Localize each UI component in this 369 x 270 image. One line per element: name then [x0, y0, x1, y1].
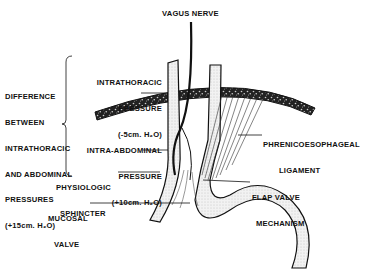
- line: VALVE: [48, 241, 88, 250]
- line: FLAP VALVE: [252, 194, 305, 203]
- label-mucosal-valve: MUCOSAL VALVE: [48, 198, 88, 258]
- line: INTRATHORACIC: [5, 145, 72, 154]
- label-vagus-nerve: VAGUS NERVE: [162, 10, 219, 19]
- line: MUCOSAL: [48, 215, 88, 224]
- line: LIGAMENT: [263, 167, 360, 176]
- line: DIFFERENCE: [5, 93, 72, 102]
- line: MECHANISM: [252, 220, 305, 229]
- line: PHRENICOESOPHAGEAL: [263, 141, 360, 150]
- line: INTRATHORACIC: [78, 79, 162, 88]
- line: BETWEEN: [5, 119, 72, 128]
- label-flap-valve-mechanism: FLAP VALVE MECHANISM: [252, 177, 305, 237]
- line: PRESSURE: [78, 105, 162, 114]
- line: PHYSIOLOGIC: [56, 184, 111, 193]
- label-phrenicoesophageal-ligament: PHRENICOESOPHAGEAL LIGAMENT: [263, 124, 360, 184]
- line: INTRA-ABDOMINAL: [72, 147, 162, 156]
